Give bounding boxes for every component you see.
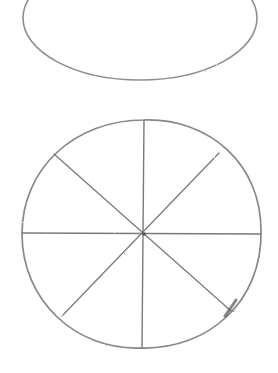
top-ellipse — [23, 0, 257, 80]
divided-circle — [22, 120, 261, 348]
spoke-diagonal-ne-sw — [62, 153, 219, 316]
sketch-canvas — [0, 0, 278, 373]
center-point — [142, 232, 146, 236]
